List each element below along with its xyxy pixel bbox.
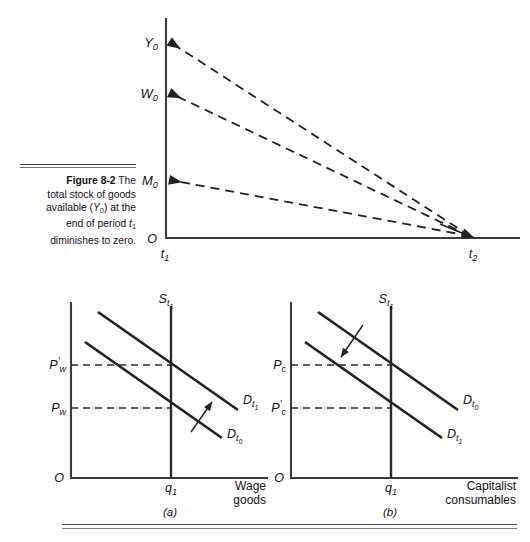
panel-a-price-label-lower: Pw <box>51 401 66 417</box>
panel-b-price-label-lower: P′c <box>271 399 286 417</box>
panel-b-demand-curve-lower <box>305 342 442 438</box>
panel-a-demand-label-upper: Dt1 <box>243 393 259 411</box>
top-chart-label-Y0: Y0 <box>144 35 159 52</box>
panel-a-wage-goods: St1 Dt1 Dt0 P′w Pw O q1 Wage goods (a) <box>49 292 268 518</box>
figure-8-2-graphic: Y0 W0 M0 O t1 t2 St1 Dt1 Dt <box>0 0 530 542</box>
panel-a-demand-curve-upper <box>98 312 238 410</box>
figure-bottom-rule <box>62 524 517 529</box>
panel-a-origin-label: O <box>54 471 64 485</box>
panel-a-quantity-label: q1 <box>165 481 177 497</box>
panel-b-demand-label-lower: Dt1 <box>447 427 463 445</box>
convergence-arrowhead-t2 <box>440 224 474 238</box>
top-chart-label-W0: W0 <box>141 86 159 103</box>
depletion-line-W0 <box>170 93 470 236</box>
depletion-line-Y0 <box>170 42 470 236</box>
panel-a-axis-caption-line1: Wage <box>235 479 266 493</box>
panel-b-price-label-upper: Pc <box>273 358 286 374</box>
panel-b-quantity-label: q1 <box>385 481 397 497</box>
panel-a-demand-curve-lower <box>85 342 222 438</box>
panel-a-demand-label-lower: Dt0 <box>227 427 243 445</box>
top-chart-label-M0: M0 <box>142 173 159 190</box>
top-chart-label-t2: t2 <box>469 247 478 263</box>
panel-a-price-label-upper: P′w <box>49 356 66 374</box>
panel-a-label: (a) <box>163 506 177 518</box>
panel-b-supply-label: St1 <box>379 292 394 310</box>
panel-b-axis-caption-line2: consumables <box>445 493 516 507</box>
panel-b-demand-curve-upper <box>318 312 458 410</box>
top-chart-origin-label: O <box>147 232 157 246</box>
top-depletion-chart: Y0 W0 M0 O t1 t2 <box>141 18 520 263</box>
panel-b-demand-label-upper: Dt0 <box>463 393 479 411</box>
panel-b-origin-label: O <box>274 471 284 485</box>
panel-a-supply-label: St1 <box>159 292 174 310</box>
panel-a-axis-caption-line2: goods <box>233 493 266 507</box>
panel-b-label: (b) <box>383 506 397 518</box>
panel-b-axis-caption-line1: Capitalist <box>467 479 517 493</box>
top-chart-label-t1: t1 <box>161 247 170 263</box>
depletion-line-M0 <box>170 180 470 236</box>
panel-b-capitalist-consumables: St1 Dt0 Dt1 Pc P′c O q1 Capitalist consu… <box>271 292 518 518</box>
